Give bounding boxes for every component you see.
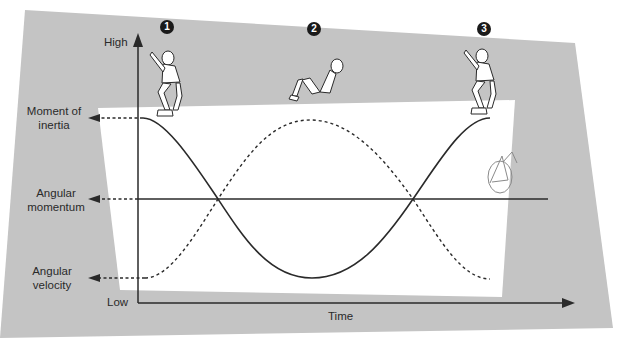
diagram-canvas <box>0 0 622 346</box>
label-moment-of-inertia: Moment of inertia <box>20 104 88 132</box>
x-axis-label: Time <box>328 310 353 322</box>
label-angular-momentum: Angular momentum <box>22 186 90 214</box>
y-axis-low-label: Low <box>107 296 128 308</box>
stage-badge-3: 3 <box>477 22 491 36</box>
stage-badge-1: 1 <box>160 20 174 34</box>
y-axis-high-label: High <box>104 36 128 48</box>
stage-badge-2: 2 <box>307 22 321 36</box>
label-angular-velocity: Angular velocity <box>22 264 82 292</box>
